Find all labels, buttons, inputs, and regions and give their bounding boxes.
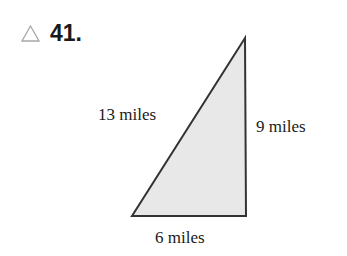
base-side-label: 6 miles: [155, 229, 205, 247]
right-triangle: [132, 38, 246, 216]
hypotenuse-label: 13 miles: [98, 106, 156, 124]
vertical-side-label: 9 miles: [256, 118, 306, 136]
